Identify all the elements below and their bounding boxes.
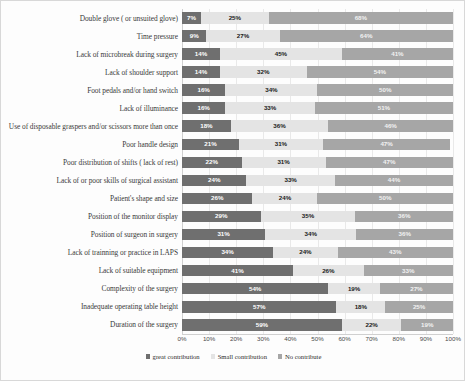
bar-segment: 31% (242, 157, 326, 169)
chart-row: Poor handle design21%31%47% (1, 135, 465, 153)
bar-segment: 50% (317, 193, 453, 205)
bar-value-label: 27% (410, 286, 422, 292)
bar-segment: 29% (182, 211, 261, 223)
stacked-bar: 16%34%50% (182, 81, 453, 99)
bar-value-label: 54% (249, 286, 261, 292)
bar-segment: 35% (261, 211, 356, 223)
bar-track: 31%34%36% (182, 229, 453, 241)
category-label: Inadequate operating table height (1, 302, 182, 311)
chart-row: Lack of shoulder support14%32%54% (1, 63, 465, 81)
bar-value-label: 36% (399, 231, 411, 237)
bar-value-label: 41% (391, 51, 403, 57)
bar-track: 54%19%27% (182, 283, 453, 295)
bar-value-label: 34% (221, 249, 233, 255)
bar-value-label: 31% (275, 141, 287, 147)
bar-segment: 16% (182, 84, 225, 96)
bar-value-label: 22% (365, 322, 377, 328)
x-axis-tick: 10% (203, 335, 215, 343)
category-label: Lack of microbreak during surgery (1, 50, 182, 59)
stacked-bar-chart: Double glove ( or unsuited glove)7%25%68… (0, 0, 465, 381)
legend-item[interactable]: great contribution (146, 353, 200, 360)
bar-value-label: 16% (197, 105, 209, 111)
bar-track: 22%31%47% (182, 157, 453, 169)
chart-row: Position of the monitor display29%35%36% (1, 208, 465, 226)
chart-row: Use of disposable graspers and/or scisso… (1, 117, 465, 135)
stacked-bar: 9%27%64% (182, 27, 453, 45)
stacked-bar: 16%33%51% (182, 99, 453, 117)
bar-value-label: 24% (279, 195, 291, 201)
stacked-bar: 57%18%25% (182, 298, 453, 316)
legend-label: great contribution (153, 353, 200, 360)
bar-value-label: 47% (383, 159, 395, 165)
bar-segment: 46% (328, 120, 453, 132)
bar-segment: 14% (182, 48, 220, 60)
bar-segment: 24% (182, 175, 246, 187)
bar-value-label: 41% (231, 268, 243, 274)
x-axis-tick: 60% (338, 335, 350, 343)
bar-segment: 34% (265, 229, 356, 241)
category-label: Lack of shoulder support (1, 68, 182, 77)
chart-row: Duration of the surgery59%22%19% (1, 316, 465, 334)
bar-track: 16%33%51% (182, 102, 453, 114)
bar-value-label: 24% (299, 249, 311, 255)
bar-segment: 64% (280, 30, 453, 42)
stacked-bar: 18%36%46% (182, 117, 453, 135)
bar-segment: 33% (225, 102, 314, 114)
stacked-bar: 41%26%33% (182, 262, 453, 280)
bar-segment: 47% (323, 139, 450, 151)
x-axis: 0%10%20%30%40%50%60%70%80%90%100% (182, 335, 453, 347)
bar-segment: 27% (206, 30, 279, 42)
bar-segment: 41% (342, 48, 453, 60)
bar-segment: 31% (182, 229, 265, 241)
bar-track: 24%33%44% (182, 175, 453, 187)
chart-row: Double glove ( or unsuited glove)7%25%68… (1, 9, 465, 27)
bar-value-label: 50% (379, 87, 391, 93)
bar-segment: 50% (317, 84, 453, 96)
bar-segment: 19% (401, 319, 452, 331)
bar-value-label: 33% (402, 268, 414, 274)
stacked-bar: 24%33%44% (182, 171, 453, 189)
stacked-bar: 31%34%36% (182, 226, 453, 244)
bar-segment: 47% (326, 157, 453, 169)
category-label: Poor distribution of shifts ( lack of re… (1, 158, 182, 167)
bar-segment: 43% (338, 247, 453, 259)
category-label: Patient's shape and size (1, 194, 182, 203)
x-axis-tick: 80% (393, 335, 405, 343)
x-axis-tick: 30% (257, 335, 269, 343)
x-axis-tick: 20% (230, 335, 242, 343)
bar-segment: 51% (315, 102, 453, 114)
bar-value-label: 24% (208, 177, 220, 183)
bar-track: 29%35%36% (182, 211, 453, 223)
bar-value-label: 27% (237, 33, 249, 39)
bar-value-label: 33% (284, 177, 296, 183)
bar-value-label: 36% (398, 213, 410, 219)
chart-row: Lack of trainning or practice in LAPS34%… (1, 244, 465, 262)
bar-value-label: 25% (229, 15, 241, 21)
bar-track: 14%32%54% (182, 66, 453, 78)
bar-segment: 68% (269, 12, 453, 24)
bar-segment: 18% (336, 301, 385, 313)
bar-segment: 32% (220, 66, 307, 78)
legend-item[interactable]: No contribute (278, 353, 321, 360)
bar-segment: 31% (239, 139, 323, 151)
chart-row: Lack of microbreak during surgery14%45%4… (1, 45, 465, 63)
x-axis-tick: 70% (365, 335, 377, 343)
bar-segment: 18% (182, 120, 231, 132)
bar-track: 21%31%47% (182, 139, 453, 151)
category-label: Lack of illuminance (1, 104, 182, 113)
chart-row: Lack of illuminance16%33%51% (1, 99, 465, 117)
bar-segment: 16% (182, 102, 225, 114)
bar-segment: 57% (182, 301, 336, 313)
bar-segment: 7% (182, 12, 201, 24)
stacked-bar: 14%32%54% (182, 63, 453, 81)
bar-value-label: 33% (264, 105, 276, 111)
bar-value-label: 45% (275, 51, 287, 57)
bar-value-label: 14% (195, 69, 207, 75)
bar-segment: 21% (182, 139, 239, 151)
legend-item[interactable]: Small contribution (211, 353, 267, 360)
chart-row: Time pressure9%27%64% (1, 27, 465, 45)
x-axis-tick: 40% (284, 335, 296, 343)
chart-row: Inadequate operating table height57%18%2… (1, 298, 465, 316)
bar-value-label: 16% (197, 87, 209, 93)
bar-track: 16%34%50% (182, 84, 453, 96)
